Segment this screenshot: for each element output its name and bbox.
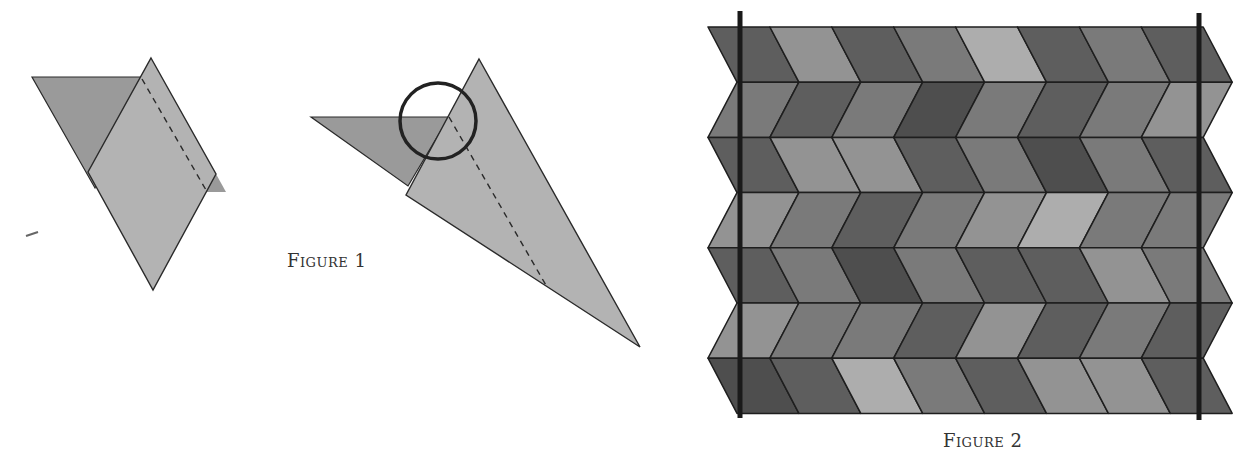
chevron-row	[708, 193, 1232, 248]
stray-mark	[26, 232, 38, 236]
chevron-row	[708, 137, 1232, 192]
figure-1-caption: Figure 1	[287, 250, 366, 271]
figure-2-caption: Figure 2	[943, 430, 1022, 451]
chevron-row	[708, 82, 1232, 137]
chevron-row	[708, 303, 1232, 358]
left-boundary-bar	[738, 11, 743, 418]
right-boundary-bar	[1197, 13, 1202, 420]
right-fold-front-triangle	[406, 59, 640, 347]
chevron-row	[708, 27, 1232, 82]
chevron-row	[708, 358, 1232, 413]
figure-1-folds	[26, 58, 640, 347]
chevron-row	[708, 248, 1232, 303]
figure-2-chevron-grid	[708, 11, 1232, 420]
